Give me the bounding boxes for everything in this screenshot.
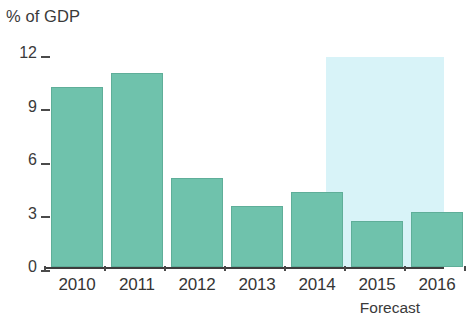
x-axis-tick [464, 266, 466, 271]
bar [411, 212, 463, 267]
bar [51, 87, 103, 267]
x-axis-tick [344, 266, 346, 271]
y-axis-tick-dash [41, 216, 50, 218]
y-axis-tick-dash [41, 109, 50, 111]
bar [291, 192, 343, 267]
x-axis-tick [224, 266, 226, 271]
x-axis-tick [44, 266, 46, 271]
y-axis-tick-label: 3 [28, 206, 37, 222]
x-axis-label: 2016 [406, 275, 468, 295]
x-axis-tick [104, 266, 106, 271]
x-axis-tick [284, 266, 286, 271]
y-axis-tick: 9 [0, 97, 50, 117]
x-axis-label: 2013 [226, 275, 288, 295]
bar [111, 73, 163, 267]
y-axis-tick: 12 [0, 43, 50, 63]
x-axis-tick [164, 266, 166, 271]
bar [231, 206, 283, 267]
x-axis-label: 2014 [286, 275, 348, 295]
y-axis-tick-dash [41, 56, 50, 58]
y-axis-tick: 6 [0, 150, 50, 170]
x-axis-tick [404, 266, 406, 271]
x-axis-label: 2010 [46, 275, 108, 295]
y-axis-tick: 0 [0, 257, 50, 277]
x-axis-label: 2012 [166, 275, 228, 295]
forecast-caption: Forecast [336, 299, 444, 317]
bar [351, 221, 403, 267]
bar [171, 178, 223, 267]
y-axis-tick-dash [41, 163, 50, 165]
y-axis-tick: 3 [0, 204, 50, 224]
y-axis-tick-label: 9 [28, 99, 37, 115]
x-axis-label: 2015 [346, 275, 408, 295]
y-axis-tick-label: 6 [28, 152, 37, 168]
y-axis-tick-label: 12 [19, 45, 37, 61]
x-axis-label: 2011 [106, 275, 168, 295]
y-axis-tick-label: 0 [28, 259, 37, 275]
